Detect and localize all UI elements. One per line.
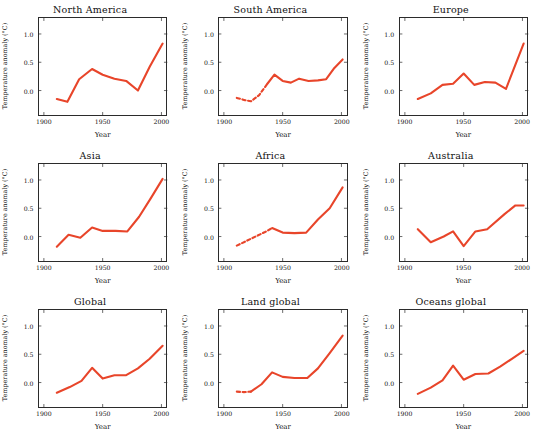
x-axis-label: Year <box>38 277 167 285</box>
y-axis-label: Temperature anomaly (°C) <box>0 160 11 264</box>
y-tick-label: 0.5 <box>384 59 396 66</box>
x-axis-label: Year <box>218 423 347 431</box>
x-tick-label: 1950 <box>275 264 291 271</box>
x-tick-label: 1900 <box>36 264 52 271</box>
x-axis-ticks: 190019502000 <box>38 410 167 420</box>
series-canvas <box>399 17 528 116</box>
y-tick-label: 0.5 <box>384 351 396 358</box>
y-axis-ticks: 0.00.51.0 <box>375 17 397 116</box>
panel-title: Africa <box>180 150 360 161</box>
y-tick-label: 0.0 <box>24 379 36 386</box>
x-axis-ticks: 190019502000 <box>218 264 347 274</box>
plot-area <box>38 163 167 262</box>
x-axis-label: Year <box>38 423 167 431</box>
y-tick-label: 0.5 <box>384 205 396 212</box>
y-axis-ticks: 0.00.51.0 <box>375 309 397 408</box>
figure-grid: North AmericaTemperature anomaly (°C)0.0… <box>0 0 541 438</box>
y-axis-label-text: Temperature anomaly (°C) <box>1 169 9 255</box>
plot-area <box>38 309 167 408</box>
x-axis-ticks: 190019502000 <box>218 410 347 420</box>
y-tick-label: 0.5 <box>24 205 36 212</box>
y-tick-label: 0.0 <box>204 379 216 386</box>
chart-panel: Oceans globalTemperature anomaly (°C)0.0… <box>361 292 541 438</box>
series-canvas <box>218 17 347 116</box>
y-axis-label: Temperature anomaly (°C) <box>179 306 191 410</box>
x-axis-ticks: 190019502000 <box>38 118 167 128</box>
y-axis-label-text: Temperature anomaly (°C) <box>181 315 189 401</box>
x-tick-label: 1900 <box>397 264 413 271</box>
plot-area <box>38 17 167 116</box>
y-axis-label: Temperature anomaly (°C) <box>360 14 372 118</box>
y-tick-label: 0.0 <box>204 87 216 94</box>
y-axis-label-text: Temperature anomaly (°C) <box>362 169 370 255</box>
y-axis-ticks: 0.00.51.0 <box>194 163 216 262</box>
x-tick-label: 2000 <box>514 264 530 271</box>
y-axis-label: Temperature anomaly (°C) <box>179 160 191 264</box>
data-series-line <box>417 44 523 99</box>
y-tick-label: 0.0 <box>24 87 36 94</box>
panel-title: Asia <box>0 150 180 161</box>
x-axis-ticks: 190019502000 <box>399 264 528 274</box>
y-tick-label: 0.5 <box>24 59 36 66</box>
series-canvas <box>218 309 347 408</box>
y-tick-label: 1.0 <box>204 176 216 183</box>
data-series-line <box>417 351 523 394</box>
plot-area <box>218 309 347 408</box>
panel-title: Global <box>0 296 180 307</box>
x-tick-label: 1950 <box>455 118 471 125</box>
y-tick-label: 0.0 <box>204 233 216 240</box>
data-series-line <box>57 179 163 247</box>
chart-panel: AustraliaTemperature anomaly (°C)0.00.51… <box>361 146 541 292</box>
y-axis-label: Temperature anomaly (°C) <box>179 14 191 118</box>
y-axis-ticks: 0.00.51.0 <box>194 17 216 116</box>
chart-panel: North AmericaTemperature anomaly (°C)0.0… <box>0 0 180 146</box>
data-series-line <box>251 336 343 392</box>
y-axis-label-text: Temperature anomaly (°C) <box>1 315 9 401</box>
x-axis-label: Year <box>218 277 347 285</box>
y-tick-label: 0.0 <box>384 379 396 386</box>
x-axis-ticks: 190019502000 <box>38 264 167 274</box>
x-tick-label: 2000 <box>334 118 350 125</box>
x-axis-label: Year <box>399 131 528 139</box>
data-series-line <box>237 228 272 246</box>
y-tick-label: 0.5 <box>24 351 36 358</box>
x-tick-label: 2000 <box>334 410 350 417</box>
data-series-line <box>57 346 163 393</box>
y-tick-label: 1.0 <box>384 30 396 37</box>
panel-title: Australia <box>361 150 541 161</box>
y-tick-label: 0.5 <box>204 59 216 66</box>
x-tick-label: 1900 <box>36 118 52 125</box>
data-series-line <box>272 187 343 233</box>
y-tick-label: 0.0 <box>24 233 36 240</box>
y-axis-ticks: 0.00.51.0 <box>375 163 397 262</box>
y-axis-label-text: Temperature anomaly (°C) <box>181 169 189 255</box>
chart-panel: Land globalTemperature anomaly (°C)0.00.… <box>180 292 360 438</box>
x-tick-label: 1950 <box>275 118 291 125</box>
plot-area <box>218 163 347 262</box>
x-tick-label: 2000 <box>334 264 350 271</box>
data-series-line <box>57 44 163 102</box>
y-axis-label-text: Temperature anomaly (°C) <box>181 23 189 109</box>
plot-area <box>399 17 528 116</box>
y-tick-label: 0.0 <box>384 87 396 94</box>
x-axis-ticks: 190019502000 <box>218 118 347 128</box>
y-tick-label: 0.0 <box>384 233 396 240</box>
x-tick-label: 2000 <box>154 118 170 125</box>
x-tick-label: 1950 <box>95 410 111 417</box>
data-series-line <box>237 84 268 102</box>
x-tick-label: 1950 <box>455 264 471 271</box>
panel-title: Land global <box>180 296 360 307</box>
panel-title: Europe <box>361 4 541 15</box>
y-axis-label-text: Temperature anomaly (°C) <box>362 315 370 401</box>
y-axis-label: Temperature anomaly (°C) <box>360 306 372 410</box>
x-tick-label: 2000 <box>154 264 170 271</box>
series-canvas <box>399 309 528 408</box>
y-axis-ticks: 0.00.51.0 <box>194 309 216 408</box>
x-tick-label: 1950 <box>95 264 111 271</box>
x-axis-ticks: 190019502000 <box>399 118 528 128</box>
x-tick-label: 1900 <box>397 410 413 417</box>
x-tick-label: 2000 <box>154 410 170 417</box>
y-axis-ticks: 0.00.51.0 <box>14 163 36 262</box>
x-tick-label: 2000 <box>514 410 530 417</box>
y-tick-label: 0.5 <box>204 205 216 212</box>
